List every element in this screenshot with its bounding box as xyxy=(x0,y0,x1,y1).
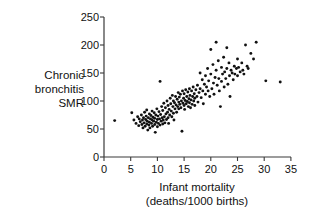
data-point xyxy=(213,93,216,96)
data-point xyxy=(154,131,157,134)
data-point xyxy=(147,124,150,127)
data-point xyxy=(164,106,167,109)
x-tick-label-0: 0 xyxy=(101,163,107,175)
data-point xyxy=(239,70,242,73)
data-point xyxy=(185,95,188,98)
data-point xyxy=(208,95,211,98)
data-point xyxy=(242,73,245,76)
data-point xyxy=(231,72,234,75)
data-point xyxy=(159,124,162,127)
data-point xyxy=(167,104,170,107)
x-axis-title-units: (deaths/1000 births) xyxy=(146,195,248,207)
data-point xyxy=(217,77,220,80)
data-point xyxy=(220,80,223,83)
data-point xyxy=(201,78,204,81)
data-point xyxy=(236,74,239,77)
x-tick-label-10: 10 xyxy=(151,163,163,175)
data-point xyxy=(204,74,207,77)
y-tick-label-0: 0 xyxy=(93,151,99,163)
data-point xyxy=(178,103,181,106)
data-point xyxy=(200,96,203,99)
y-tick-label-100: 100 xyxy=(81,95,99,107)
data-point xyxy=(207,79,210,82)
data-point xyxy=(161,109,164,112)
data-point xyxy=(233,73,236,76)
data-point xyxy=(160,105,163,108)
data-point xyxy=(170,110,173,113)
data-point xyxy=(214,76,217,79)
data-point xyxy=(230,69,233,72)
data-point xyxy=(209,48,212,51)
data-point xyxy=(224,77,227,80)
data-point xyxy=(148,126,151,129)
data-point xyxy=(174,107,177,110)
data-point xyxy=(192,86,195,89)
y-tick-label-50: 50 xyxy=(87,123,99,135)
data-point xyxy=(156,125,159,128)
data-point xyxy=(170,115,173,118)
data-point xyxy=(175,111,178,114)
data-point xyxy=(199,72,202,75)
data-point xyxy=(130,111,133,114)
data-point xyxy=(228,74,231,77)
data-point xyxy=(225,67,228,70)
data-point xyxy=(137,124,140,127)
data-point xyxy=(188,87,191,90)
data-point xyxy=(189,106,192,109)
data-point xyxy=(221,73,224,76)
scatter-plot-figure: Chronic bronchitis SMR 0 50 100 150 200 … xyxy=(0,0,314,211)
data-point xyxy=(143,121,146,124)
data-point xyxy=(176,98,179,101)
data-point xyxy=(203,83,206,86)
data-point xyxy=(178,96,181,99)
y-axis-label-line-2: bronchitis xyxy=(35,83,84,95)
data-point xyxy=(159,113,162,116)
data-point xyxy=(143,111,146,114)
data-point xyxy=(179,93,182,96)
data-point xyxy=(264,79,267,82)
x-tick-label-20: 20 xyxy=(205,163,217,175)
data-point xyxy=(171,105,174,108)
x-tick-label-30: 30 xyxy=(258,163,270,175)
data-point xyxy=(190,89,193,92)
x-tick-label-25: 25 xyxy=(231,163,243,175)
data-point xyxy=(255,41,258,44)
data-point xyxy=(167,116,170,119)
data-point xyxy=(218,89,221,92)
data-point xyxy=(252,58,255,61)
x-tick-label-15: 15 xyxy=(178,163,190,175)
data-point xyxy=(190,98,193,101)
data-point xyxy=(140,114,143,117)
data-point xyxy=(195,95,198,98)
data-point xyxy=(162,119,165,122)
data-point xyxy=(172,112,175,115)
data-point xyxy=(146,129,149,132)
data-point xyxy=(204,93,207,96)
data-point xyxy=(223,86,226,89)
data-point xyxy=(191,103,194,106)
data-point xyxy=(155,107,158,110)
data-point xyxy=(179,106,182,109)
data-point xyxy=(169,97,172,100)
x-tick-marks xyxy=(104,157,291,161)
data-point xyxy=(193,92,196,95)
data-point xyxy=(206,67,209,70)
data-point xyxy=(159,80,162,83)
data-point xyxy=(233,65,236,68)
data-point xyxy=(132,119,135,122)
data-point xyxy=(138,117,141,120)
data-point xyxy=(210,87,213,90)
data-point xyxy=(223,70,226,73)
data-point xyxy=(212,82,215,85)
data-point xyxy=(169,102,172,105)
data-point xyxy=(240,61,243,64)
data-point xyxy=(152,120,155,123)
data-point xyxy=(209,73,212,76)
x-tick-label-5: 5 xyxy=(128,163,134,175)
data-point xyxy=(211,63,214,66)
data-point xyxy=(202,102,205,105)
data-point xyxy=(217,59,220,62)
data-point xyxy=(188,101,191,104)
data-point xyxy=(193,104,196,107)
data-point xyxy=(192,100,195,103)
